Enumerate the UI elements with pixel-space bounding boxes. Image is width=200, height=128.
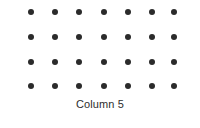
scatter-point — [125, 83, 131, 89]
scatter-point — [28, 83, 34, 89]
scatter-point — [171, 83, 177, 89]
scatter-point — [76, 9, 82, 15]
scatter-point — [125, 34, 131, 40]
scatter-point — [52, 9, 58, 15]
scatter-point — [28, 59, 34, 65]
scatter-point — [101, 83, 107, 89]
scatter-point — [171, 59, 177, 65]
scatter-point — [149, 34, 155, 40]
scatter-point — [149, 9, 155, 15]
scatter-point — [101, 9, 107, 15]
scatter-point — [149, 59, 155, 65]
scatter-point — [125, 59, 131, 65]
scatter-point — [52, 83, 58, 89]
scatter-point — [76, 83, 82, 89]
scatter-point — [28, 34, 34, 40]
scatter-point — [171, 34, 177, 40]
scatter-point — [101, 59, 107, 65]
scatter-point — [76, 34, 82, 40]
scatter-point — [101, 34, 107, 40]
scatter-point — [28, 9, 34, 15]
scatter-point — [52, 34, 58, 40]
scatter-point — [171, 9, 177, 15]
dot-plot-figure: Column 5 — [0, 0, 200, 128]
scatter-point — [52, 59, 58, 65]
x-axis-label: Column 5 — [0, 98, 200, 111]
scatter-point — [149, 83, 155, 89]
scatter-point — [125, 9, 131, 15]
scatter-point — [76, 59, 82, 65]
